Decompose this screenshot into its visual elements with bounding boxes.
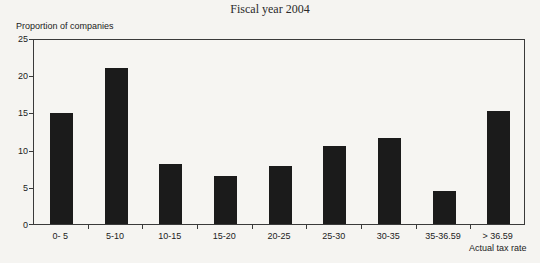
x-tick-mark (361, 225, 362, 229)
chart-title: Fiscal year 2004 (0, 2, 540, 17)
x-axis-title: Actual tax rate (469, 243, 527, 253)
y-tick-label: 25 (8, 34, 28, 44)
y-axis-title: Proportion of companies (16, 21, 114, 31)
bar-30-35 (378, 138, 401, 224)
bar-36.59 (487, 111, 510, 224)
bar-15-20 (214, 176, 237, 224)
x-tick-label: 5-10 (106, 231, 124, 241)
x-tick-mark (142, 225, 143, 229)
y-tick-label: 15 (8, 108, 28, 118)
x-tick-mark (306, 225, 307, 229)
bar-10-15 (159, 164, 182, 224)
x-tick-label: 30-35 (377, 231, 400, 241)
x-tick-label: 10-15 (158, 231, 181, 241)
bar-20-25 (269, 166, 292, 224)
y-tick-label: 10 (8, 146, 28, 156)
plot-area (33, 39, 525, 225)
y-tick-mark (29, 151, 33, 152)
x-tick-label: > 36.59 (483, 231, 513, 241)
x-tick-mark (470, 225, 471, 229)
x-tick-label: 35-36.59 (425, 231, 461, 241)
bar-35-36.59 (433, 191, 456, 224)
bar-5-10 (105, 68, 128, 224)
y-tick-mark (29, 113, 33, 114)
bar-chart-figure: Fiscal year 2004 Proportion of companies… (0, 0, 540, 263)
y-tick-mark (29, 39, 33, 40)
x-tick-mark (416, 225, 417, 229)
x-tick-mark (252, 225, 253, 229)
y-tick-mark (29, 188, 33, 189)
y-tick-mark (29, 224, 33, 225)
bar-0-5 (50, 113, 73, 224)
bar-25-30 (323, 146, 346, 224)
y-tick-mark (29, 76, 33, 77)
x-tick-label: 0- 5 (53, 231, 69, 241)
x-tick-label: 20-25 (267, 231, 290, 241)
x-tick-mark (197, 225, 198, 229)
y-tick-label: 0 (8, 220, 28, 230)
x-tick-label: 25-30 (322, 231, 345, 241)
x-tick-mark (88, 225, 89, 229)
x-tick-label: 15-20 (213, 231, 236, 241)
y-tick-label: 5 (8, 183, 28, 193)
y-tick-label: 20 (8, 71, 28, 81)
